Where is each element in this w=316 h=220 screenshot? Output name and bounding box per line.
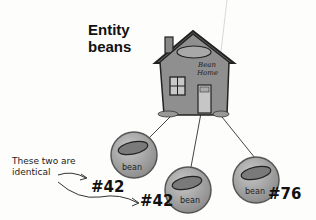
bean-label: bean: [122, 163, 142, 172]
home-label-2: Home: [196, 69, 218, 77]
connector-lines: [146, 112, 255, 167]
bean-label: bean: [245, 187, 265, 196]
annotation-note: These two are identical: [12, 156, 76, 178]
annotation-line-2: identical: [12, 167, 76, 178]
home-label-1: Bean: [197, 61, 216, 69]
bean-primary-key: #42: [91, 178, 124, 196]
bean-primary-key: #42: [140, 192, 173, 210]
bean-primary-key: #76: [268, 185, 301, 203]
bean-label: bean: [180, 196, 200, 205]
annotation-line-1: These two are: [12, 156, 76, 167]
